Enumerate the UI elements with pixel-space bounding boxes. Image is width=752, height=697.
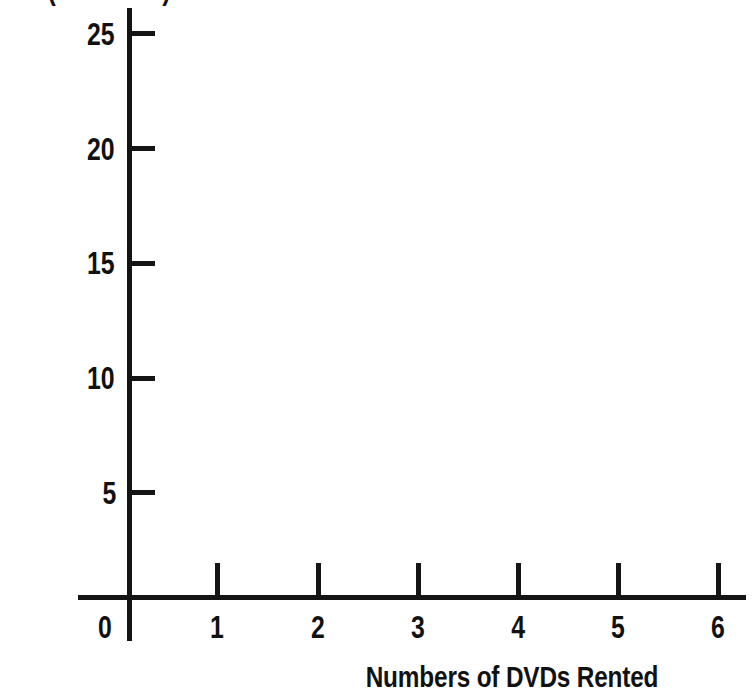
x-tick-label-4: 4	[511, 610, 525, 644]
coordinate-grid-chart: 25 20 15 10 5 1 2 3 4 5 6 0 Numbers of D…	[0, 0, 752, 697]
y-axis-tick-labels: 25 20 15 10 5	[87, 17, 116, 510]
y-axis-title: Total monthly cost (in dollars)	[0, 0, 170, 6]
x-tick-label-5: 5	[611, 610, 625, 644]
origin-label: 0	[98, 610, 112, 644]
y-axis-tick-marks	[129, 34, 155, 493]
y-tick-label-25: 25	[87, 17, 115, 51]
x-tick-label-3: 3	[411, 610, 425, 644]
x-tick-label-6: 6	[711, 610, 725, 644]
x-tick-label-2: 2	[311, 610, 325, 644]
x-axis-tick-labels: 1 2 3 4 5 6	[210, 610, 725, 644]
y-tick-label-20: 20	[87, 132, 115, 166]
x-tick-label-1: 1	[210, 610, 224, 644]
y-tick-label-5: 5	[102, 476, 116, 510]
x-axis-tick-marks	[218, 563, 719, 598]
axis-lines	[78, 8, 746, 641]
chart-figure: 25 20 15 10 5 1 2 3 4 5 6 0 Numbers of D…	[0, 0, 752, 697]
y-tick-label-15: 15	[87, 246, 115, 280]
x-axis-title: Numbers of DVDs Rented	[366, 661, 659, 693]
y-tick-label-10: 10	[87, 361, 115, 395]
